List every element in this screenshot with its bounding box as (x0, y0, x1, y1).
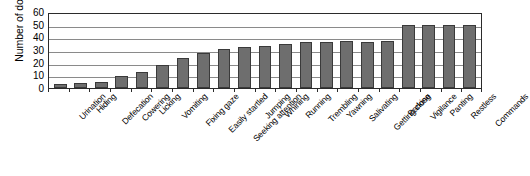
bar[interactable] (259, 46, 272, 88)
bar[interactable] (279, 44, 292, 88)
bar-slot (316, 14, 336, 88)
x-axis-label: Commands (493, 92, 530, 129)
bar-slot (275, 14, 295, 88)
bar[interactable] (218, 49, 231, 88)
bar-slot (357, 14, 377, 88)
y-axis-tick-label: 10 (20, 71, 44, 81)
bar[interactable] (177, 58, 190, 88)
bar-slot (173, 14, 193, 88)
y-axis-tick-labels: 6050403020100 (20, 8, 44, 90)
bar[interactable] (197, 53, 210, 88)
bar-slot (418, 14, 438, 88)
bar[interactable] (340, 41, 353, 88)
bar-slot (193, 14, 213, 88)
bar[interactable] (381, 41, 394, 89)
bar-slot (439, 14, 459, 88)
bar-slot (296, 14, 316, 88)
bar[interactable] (361, 42, 374, 88)
bar[interactable] (422, 25, 435, 88)
bar[interactable] (115, 76, 128, 88)
bar-slot (255, 14, 275, 88)
plot-area (48, 13, 482, 89)
bar-slot (50, 14, 70, 88)
bar[interactable] (443, 25, 456, 88)
y-axis-tick-label: 20 (20, 59, 44, 69)
x-axis-label: Restless (470, 92, 499, 121)
y-axis-tick-label: 0 (20, 84, 44, 94)
bar-slot (337, 14, 357, 88)
bar-slot (152, 14, 172, 88)
bar-slot (70, 14, 90, 88)
x-axis-label: Vomiting (180, 92, 209, 121)
bar[interactable] (402, 25, 415, 88)
y-axis-tick-label: 60 (20, 8, 44, 18)
bar-slot (378, 14, 398, 88)
bar[interactable] (300, 42, 313, 88)
bar[interactable] (74, 83, 87, 88)
bar-slot (214, 14, 234, 88)
bar-slot (111, 14, 131, 88)
bar[interactable] (95, 82, 108, 88)
bar-slot (234, 14, 254, 88)
bar-slot (91, 14, 111, 88)
bar[interactable] (54, 84, 67, 88)
bar[interactable] (238, 47, 251, 88)
bars-container (49, 14, 481, 88)
bar-slot (132, 14, 152, 88)
y-axis-tick-label: 50 (20, 21, 44, 31)
y-axis-tick-label: 30 (20, 46, 44, 56)
bar[interactable] (156, 65, 169, 88)
bar[interactable] (136, 72, 149, 88)
y-axis-tick-label: 40 (20, 33, 44, 43)
x-axis-category-labels: UrinationHidingDefecationCoweringLicking… (48, 92, 482, 176)
bar-slot (398, 14, 418, 88)
bar[interactable] (463, 25, 476, 88)
bar[interactable] (320, 42, 333, 88)
bar-slot (459, 14, 479, 88)
